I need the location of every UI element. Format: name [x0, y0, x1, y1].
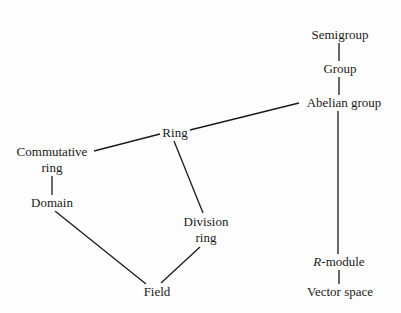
- edge-abelian-group-ring: [190, 103, 299, 130]
- node-label-line2: ring: [17, 160, 88, 176]
- node-label: Field: [144, 284, 171, 299]
- edge-ring-division-ring: [174, 141, 203, 213]
- node-field: Field: [143, 284, 172, 300]
- node-label-line1: Commutative: [17, 144, 88, 160]
- edge-ring-commutative-ring: [94, 134, 160, 151]
- algebraic-structures-diagram: Semigroup Group Abelian group Ring Commu…: [0, 0, 401, 313]
- node-commutative-ring: Commutative ring: [16, 144, 89, 176]
- node-label: Semigroup: [311, 27, 368, 42]
- node-label-line1: Division: [184, 214, 229, 230]
- node-label: Group: [323, 61, 356, 76]
- node-division-ring: Division ring: [183, 214, 230, 246]
- node-vector-space: Vector space: [306, 284, 374, 300]
- node-domain: Domain: [30, 195, 74, 211]
- node-label: Abelian group: [307, 95, 382, 110]
- node-label: Vector space: [307, 284, 373, 299]
- node-label-line2: ring: [184, 230, 229, 246]
- edge-division-ring-field: [161, 247, 200, 283]
- edge-domain-field: [55, 211, 146, 284]
- node-label-italic: R: [313, 254, 321, 269]
- node-label: Domain: [31, 195, 73, 210]
- node-group: Group: [322, 61, 357, 77]
- node-label-rest: -module: [321, 254, 364, 269]
- node-label: Ring: [162, 125, 187, 140]
- node-ring: Ring: [161, 125, 188, 141]
- node-semigroup: Semigroup: [310, 27, 369, 43]
- node-abelian-group: Abelian group: [306, 95, 383, 111]
- node-r-module: R-module: [312, 254, 365, 270]
